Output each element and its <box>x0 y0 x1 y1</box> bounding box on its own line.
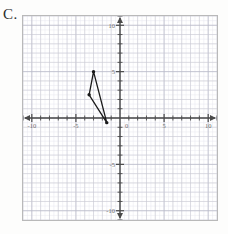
x-tick-label: 10 <box>205 122 212 129</box>
problem-label: C. <box>3 6 18 23</box>
worksheet-figure: C. -10-50510-10-5510 <box>0 0 228 234</box>
y-tick-label: 10 <box>109 22 116 29</box>
y-tick-label: -5 <box>110 161 115 168</box>
x-axis-arrow-right <box>210 115 216 121</box>
y-axis-arrow-up <box>117 17 123 23</box>
y-tick-label: 5 <box>112 68 115 75</box>
vertex-marker <box>105 121 108 124</box>
y-axis-arrow-down <box>117 213 123 219</box>
coordinate-plane: -10-50510-10-5510 <box>22 15 218 221</box>
vertex-marker <box>92 70 95 73</box>
coordinate-plane-svg: -10-50510-10-5510 <box>23 16 217 220</box>
x-tick-label: 5 <box>162 122 165 129</box>
x-tick-label: 0 <box>125 122 128 129</box>
y-tick-label: -10 <box>106 207 115 214</box>
axes <box>24 17 216 219</box>
x-tick-label: -5 <box>73 122 78 129</box>
x-axis-arrow-left <box>24 115 30 121</box>
vertex-marker <box>87 93 90 96</box>
x-tick-label: -10 <box>27 122 36 129</box>
